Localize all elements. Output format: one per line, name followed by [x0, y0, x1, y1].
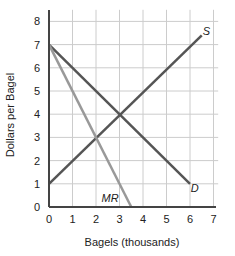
svg-text:4: 4 — [34, 108, 40, 120]
x-axis-label: Bagels (thousands) — [85, 236, 180, 248]
svg-text:8: 8 — [34, 15, 40, 27]
svg-text:6: 6 — [34, 62, 40, 74]
x-tick-labels: 01234567 — [46, 213, 217, 225]
chart: 01234567 012345678 SDMR Bagels (thousand… — [0, 0, 235, 256]
y-axis-label: Dollars per Bagel — [4, 73, 16, 157]
curve-s — [49, 35, 202, 183]
svg-text:1: 1 — [69, 213, 75, 225]
svg-text:2: 2 — [34, 155, 40, 167]
curve-mr — [49, 45, 131, 207]
svg-text:7: 7 — [34, 39, 40, 51]
svg-text:7: 7 — [210, 213, 216, 225]
svg-text:4: 4 — [140, 213, 146, 225]
svg-text:S: S — [203, 25, 211, 37]
svg-text:1: 1 — [34, 178, 40, 190]
svg-text:0: 0 — [46, 213, 52, 225]
svg-text:5: 5 — [34, 85, 40, 97]
y-tick-labels: 012345678 — [34, 15, 40, 213]
svg-text:D: D — [191, 182, 199, 194]
svg-text:MR: MR — [102, 192, 119, 204]
curves — [49, 35, 202, 207]
svg-text:3: 3 — [116, 213, 122, 225]
grid — [49, 10, 218, 207]
svg-text:0: 0 — [34, 201, 40, 213]
svg-text:5: 5 — [163, 213, 169, 225]
svg-text:6: 6 — [187, 213, 193, 225]
svg-text:3: 3 — [34, 131, 40, 143]
svg-text:2: 2 — [93, 213, 99, 225]
